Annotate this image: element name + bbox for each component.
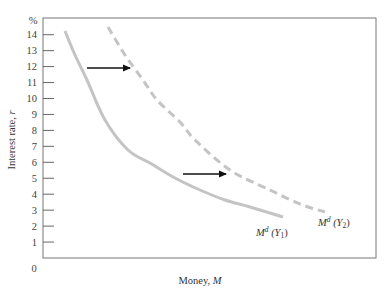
curve-label-y2: Md (Y2) [317,215,350,230]
y-tick-label: 12 [27,61,38,72]
money-demand-chart: 1234567891011121314 % 0 Interest rate, r… [0,0,388,296]
curve-md-y1 [65,31,283,217]
y-tick-label: 8 [32,125,37,136]
x-axis-label: Money, M [178,275,222,286]
y-tick-label: 3 [32,205,37,216]
y-tick-label: 1 [32,237,37,248]
y-tick-label: 11 [27,77,37,88]
y-unit-label: % [29,15,38,26]
y-tick-label: 9 [32,109,37,120]
y-axis-ticks: 1234567891011121314 [27,29,55,247]
y-tick-label: 7 [32,141,37,152]
y-tick-label: 5 [32,173,37,184]
curve-label-y1: Md (Y1) [255,225,288,240]
curve-md-y2 [108,27,325,212]
y-tick-label: 4 [32,189,38,200]
y-tick-label: 6 [32,157,37,168]
y-tick-label: 2 [32,221,37,232]
curves [65,27,325,217]
y-tick-label: 10 [27,93,38,104]
y-axis-label: Interest rate, r [6,109,17,169]
y-tick-label: 14 [27,29,38,40]
y-tick-label: 13 [27,45,38,56]
origin-label: 0 [31,263,36,274]
